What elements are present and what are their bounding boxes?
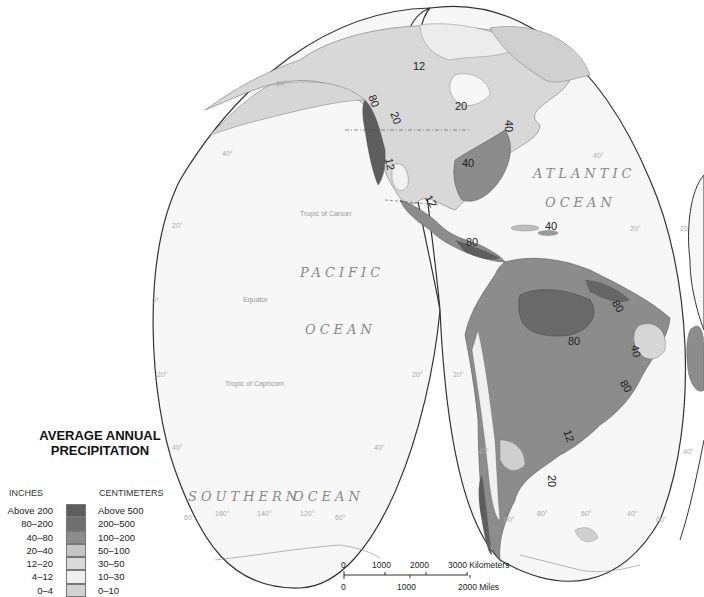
legend-row: 80–200 200–500 <box>0 517 180 530</box>
isohyet-label: 20 <box>546 475 558 487</box>
lat-label: 40° <box>683 448 694 455</box>
lat-label: 40° <box>593 152 604 159</box>
legend-inches-value: 0–4 <box>37 585 53 596</box>
legend-swatch <box>66 544 86 557</box>
isohyet-label: 80 <box>568 335 580 347</box>
legend-cm-value: 50–100 <box>98 545 130 556</box>
scale-mi-tick: 0 <box>341 582 346 592</box>
tropic-of-cancer-label: Tropic of Cancer <box>300 210 351 217</box>
legend-swatch <box>66 517 86 530</box>
legend-row: 40–80 100–200 <box>0 531 180 544</box>
atlantic-ocean-label-2: OCEAN <box>545 195 616 210</box>
legend-inches-value: 20–40 <box>27 545 53 556</box>
lat-label: 20° <box>172 222 183 229</box>
southern-ocean-label-2: OCEAN <box>293 489 364 504</box>
southern-ocean-label-1: SOUTHERN <box>188 489 301 504</box>
legend-row: 12–20 30–50 <box>0 557 180 570</box>
equator-label: Equator <box>243 296 268 303</box>
scale-km-tick: 0 <box>341 560 346 570</box>
legend-inches-value: 12–20 <box>27 558 53 569</box>
scale-km-tick: 1000 <box>372 560 391 570</box>
scale-km-tick: 2000 <box>410 560 429 570</box>
legend-inches-value: Above 200 <box>8 505 53 516</box>
pacific-ocean-label-1: PACIFIC <box>300 265 384 280</box>
lat-label: 60° <box>184 514 195 521</box>
isohyet-label: 40 <box>629 344 643 358</box>
pacific-ocean-label-2: OCEAN <box>305 322 376 337</box>
atlantic-ocean-label-1: ATLANTIC <box>533 166 636 181</box>
lon-label: 140° <box>257 510 271 517</box>
scale-line <box>340 571 480 581</box>
legend-row: Above 200 Above 500 <box>0 504 180 517</box>
legend-swatch <box>66 504 86 517</box>
legend-cm-header: CENTIMETERS <box>99 488 164 498</box>
legend-swatch <box>66 531 86 544</box>
lat-label: 20° <box>157 371 168 378</box>
legend-swatch <box>66 557 86 570</box>
legend-swatch <box>66 570 86 583</box>
legend-cm-value: 30–50 <box>98 558 124 569</box>
lat-label: 20° <box>630 225 641 232</box>
legend-cm-value: 100–200 <box>98 532 135 543</box>
scale-mi-tick: 1000 <box>397 582 416 592</box>
legend-title-line2: PRECIPITATION <box>20 443 180 458</box>
legend-inches-value: 80–200 <box>21 518 53 529</box>
legend-cm-value: 0–10 <box>98 585 119 596</box>
scale-bar: 0 1000 2000 3000 Kilometers 0 1000 2000 … <box>340 560 520 594</box>
lat-label: 60° <box>504 516 515 523</box>
lon-label: 80° <box>537 510 548 517</box>
map-lobe-east-fragment <box>689 175 704 330</box>
legend-row: 20–40 50–100 <box>0 544 180 557</box>
isohyet-label: 40 <box>545 220 557 232</box>
legend-inches-header: INCHES <box>9 488 43 498</box>
isohyet-label: 40 <box>503 120 515 132</box>
lon-label: 40° <box>627 510 638 517</box>
isohyet-label: 40 <box>462 157 474 169</box>
lat-label: 60° <box>656 516 667 523</box>
legend-row: 4–12 10–30 <box>0 570 180 583</box>
lat-label: 20° <box>453 371 464 378</box>
lat-label: 40° <box>478 448 489 455</box>
lon-label: 60° <box>581 510 592 517</box>
legend-cm-value: 200–500 <box>98 518 135 529</box>
precipitation-legend: AVERAGE ANNUAL PRECIPITATION INCHES CENT… <box>0 428 180 458</box>
lon-label: 160° <box>215 510 229 517</box>
legend-row: 0–4 0–10 <box>0 584 180 597</box>
legend-swatch <box>66 584 86 597</box>
lon-label: 120° <box>300 510 314 517</box>
legend-title-line1: AVERAGE ANNUAL <box>20 428 180 443</box>
lat-label: 20° <box>412 371 423 378</box>
isohyet-label: 12 <box>383 157 397 171</box>
scale-km-tick: 3000 Kilometers <box>448 560 509 570</box>
isohyet-label: 80 <box>466 236 478 248</box>
lat-label: 40° <box>222 150 233 157</box>
scale-mi-tick: 2000 Miles <box>458 582 499 592</box>
lat-label: 60° <box>335 514 346 521</box>
lat-label: 0° <box>152 297 159 304</box>
lat-label: 20° <box>680 225 691 232</box>
lat-label: 60° <box>276 80 287 87</box>
isohyet-label: 20 <box>455 100 467 112</box>
lat-label: 40° <box>374 444 385 451</box>
legend-cm-value: 10–30 <box>98 571 124 582</box>
tropic-of-capricorn-label: Tropic of Capricorn <box>225 380 284 387</box>
legend-inches-value: 40–80 <box>27 532 53 543</box>
legend-inches-value: 4–12 <box>32 571 53 582</box>
legend-cm-value: Above 500 <box>98 505 143 516</box>
isohyet-label: 12 <box>413 60 425 72</box>
